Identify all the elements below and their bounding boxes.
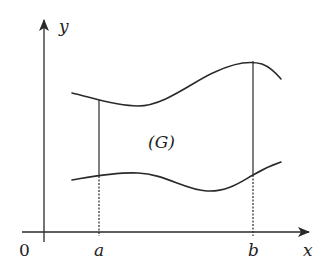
a-label: a	[94, 240, 104, 260]
origin-label: 0	[19, 240, 30, 260]
y-axis-label: y	[58, 16, 69, 36]
x-axis-label: x	[303, 240, 313, 260]
b-label: b	[248, 240, 259, 260]
upper-curve	[72, 62, 281, 106]
region-label: (G)	[148, 132, 175, 152]
region-diagram: y 0 a b x (G)	[0, 0, 329, 278]
lower-curve	[72, 162, 281, 191]
